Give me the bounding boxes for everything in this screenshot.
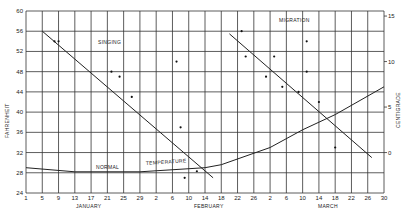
singing-trend-line (42, 31, 213, 178)
temperature-label: TEMPERATURE (146, 157, 187, 166)
migration-observations-point (241, 30, 243, 32)
centigrade-tick-label: 15 (388, 13, 395, 19)
fahrenheit-axis-label: FAHRENHEIT (4, 103, 10, 138)
x-tick-label: 18 (332, 195, 339, 201)
x-tick-label: 29 (137, 195, 144, 201)
singing-observations-point (131, 96, 133, 98)
migration-observations-point (318, 101, 320, 103)
centigrade-tick-label: 5 (388, 104, 392, 110)
x-tick-label: 30 (381, 195, 388, 201)
singing-observations-point (110, 71, 112, 73)
normal-label: NORMAL (96, 164, 119, 170)
x-tick-label: 6 (285, 195, 289, 201)
x-tick-label: 14 (202, 195, 209, 201)
x-tick-label: 10 (299, 195, 306, 201)
singing-observations-point (179, 126, 181, 128)
x-tick-label: 6 (171, 195, 175, 201)
centigrade-tick-label: 0 (388, 150, 392, 156)
y-tick-label: 24 (16, 190, 23, 196)
x-tick-label: 22 (234, 195, 241, 201)
migration-observations-point (334, 146, 336, 148)
x-tick-label: 17 (88, 195, 95, 201)
y-tick-label: 40 (16, 109, 23, 115)
x-tick-label: 10 (185, 195, 192, 201)
x-tick-label: 18 (218, 195, 225, 201)
migration-observations-point (265, 76, 267, 78)
x-tick-label: 13 (71, 195, 78, 201)
x-tick-label: 26 (250, 195, 257, 201)
month-january: JANUARY (76, 203, 102, 209)
singing-label: SINGING (98, 39, 121, 45)
x-tick-label: 5 (41, 195, 45, 201)
y-axis-centigrade: 151050 (384, 13, 395, 156)
migration-observations-point (273, 55, 275, 57)
y-axis-fahrenheit: 24283236404448525660 (16, 8, 23, 196)
migration-observations-point (306, 40, 308, 42)
y-tick-label: 56 (16, 28, 23, 34)
singing-observations-point (196, 170, 198, 172)
y-tick-label: 36 (16, 129, 23, 135)
x-axis-dates: 159131721252926101418222626101418222630 (24, 195, 388, 201)
singing-observations-point (57, 40, 59, 42)
x-tick-label: 14 (316, 195, 323, 201)
centigrade-tick-label: 10 (388, 59, 395, 65)
migration-observations-point (306, 71, 308, 73)
grid (26, 11, 384, 193)
x-tick-label: 25 (120, 195, 127, 201)
y-tick-label: 28 (16, 170, 23, 176)
migration-observations-point (281, 86, 283, 88)
x-tick-label: 2 (268, 195, 272, 201)
migration-observations-point (245, 55, 247, 57)
centigrade-axis-label: CENTIGRADE (395, 92, 401, 128)
x-tick-label: 2 (155, 195, 159, 201)
x-tick-label: 22 (348, 195, 355, 201)
month-march: MARCH (318, 203, 338, 209)
singing-observations-point (175, 60, 177, 62)
temperature-singing-migration-chart: 24283236404448525660 151050 159131721252… (0, 0, 408, 219)
y-tick-label: 48 (16, 69, 23, 75)
migration-trend-line (229, 34, 371, 158)
x-tick-label: 21 (104, 195, 111, 201)
singing-observations-point (53, 40, 55, 42)
x-tick-label: 26 (364, 195, 371, 201)
migration-label: MIGRATION (279, 17, 310, 23)
y-tick-label: 60 (16, 8, 23, 14)
singing-observations-point (118, 76, 120, 78)
y-tick-label: 52 (16, 48, 23, 54)
migration-observations-point (297, 91, 299, 93)
x-tick-label: 9 (57, 195, 61, 201)
month-february: FEBRUARY (194, 203, 224, 209)
singing-observations-point (184, 177, 186, 179)
y-tick-label: 44 (16, 89, 23, 95)
y-tick-label: 32 (16, 150, 23, 156)
x-tick-label: 1 (24, 195, 28, 201)
